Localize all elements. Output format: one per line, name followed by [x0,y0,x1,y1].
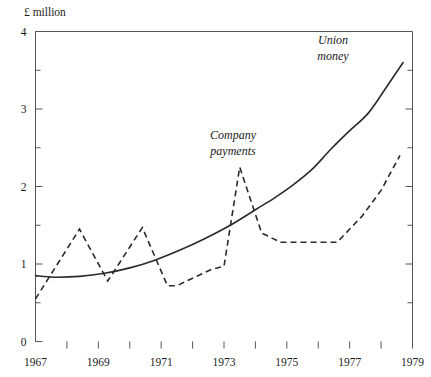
x-axis-ticks [67,342,413,349]
series-label-company-payments-line1: Company [210,128,257,142]
axis-frame [36,32,413,342]
series-label-union-money-line1: Union [318,33,348,47]
series-label-union-money-line2: money [317,49,349,63]
line-chart: 01234 1967196919711973197519771979 £ mil… [0,0,431,377]
x-axis-tick-label: 1977 [338,356,361,368]
x-axis-tick-label: 1967 [24,356,47,368]
y-axis-tick-label: 2 [21,181,27,193]
x-axis-tick-label: 1969 [87,356,110,368]
chart-canvas: 01234 1967196919711973197519771979 £ mil… [0,0,431,377]
y-axis-right-major-ticks [406,109,413,264]
y-axis-title: £ million [24,6,66,18]
y-axis-major-ticks [36,32,43,342]
y-axis-tick-label: 1 [21,258,27,270]
y-axis-tick-labels: 01234 [21,26,27,348]
series-label-company-payments-line2: payments [209,144,256,158]
y-axis-tick-label: 4 [21,26,27,38]
x-axis-tick-labels: 1967196919711973197519771979 [24,356,424,368]
series-line-company-payments [36,156,400,299]
x-axis-tick-label: 1975 [275,356,298,368]
series-line-union-money [36,63,404,278]
y-axis-tick-label: 3 [21,103,27,115]
y-axis-tick-label: 0 [21,336,27,348]
plot-frame [36,32,413,342]
x-axis-tick-label: 1973 [213,356,236,368]
x-axis-tick-label: 1971 [150,356,173,368]
x-axis-tick-label: 1979 [401,356,424,368]
